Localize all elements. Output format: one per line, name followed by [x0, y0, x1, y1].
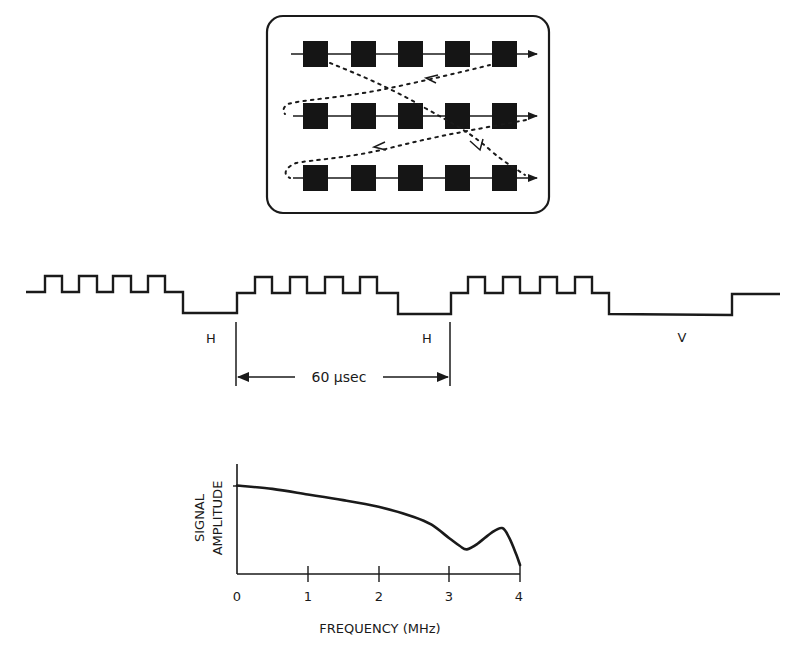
- y-axis-label-line-2: AMPLITUDE: [210, 481, 225, 556]
- pixel: [398, 165, 423, 191]
- h-sync-label-1: H: [206, 331, 216, 346]
- spectrum-chart: 0 1 2 3 4 FREQUENCY (MHz) SIGNAL AMPLITU…: [192, 464, 523, 636]
- waveform-trace: [26, 276, 780, 315]
- pixel: [398, 103, 423, 129]
- pixel: [303, 165, 328, 191]
- pixel: [351, 41, 376, 67]
- figure-canvas: H H V 60 µsec 0 1 2 3 4: [0, 0, 798, 654]
- x-tick-labels: 0 1 2 3 4: [233, 589, 523, 604]
- pixel: [398, 41, 423, 67]
- x-tick-label: 2: [375, 589, 383, 604]
- duration-label: 60 µsec: [312, 369, 367, 385]
- spectrum-curve: [237, 486, 520, 566]
- pixel: [492, 41, 517, 67]
- pixel: [445, 103, 470, 129]
- pixel: [351, 103, 376, 129]
- x-tick-label: 0: [233, 589, 241, 604]
- retrace-arrow-icon: [374, 142, 386, 150]
- pixel: [303, 41, 328, 67]
- x-tick-label: 3: [445, 589, 453, 604]
- scan-panel: [267, 16, 549, 213]
- pixel: [351, 165, 376, 191]
- pixel: [445, 165, 470, 191]
- x-tick-label: 4: [515, 589, 523, 604]
- v-sync-label: V: [678, 330, 687, 345]
- video-waveform: H H V 60 µsec: [26, 276, 780, 386]
- y-axis-label-line-1: SIGNAL: [192, 493, 207, 542]
- h-sync-label-2: H: [422, 331, 432, 346]
- pixel: [303, 103, 328, 129]
- pixel: [445, 41, 470, 67]
- x-axis-label: FREQUENCY (MHz): [319, 621, 440, 636]
- pixel: [492, 165, 517, 191]
- x-tick-label: 1: [304, 589, 312, 604]
- retrace-arrow-icon: [470, 139, 483, 150]
